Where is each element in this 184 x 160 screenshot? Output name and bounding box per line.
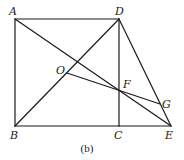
geometry-diagram: A D B C E O F G (b) bbox=[0, 0, 184, 160]
label-F: F bbox=[122, 78, 131, 91]
figure-caption: (b) bbox=[81, 142, 94, 155]
label-O: O bbox=[56, 64, 65, 77]
label-D: D bbox=[114, 5, 124, 18]
segment-OG bbox=[67, 73, 160, 104]
label-A: A bbox=[8, 5, 17, 18]
segment-AE bbox=[15, 19, 171, 126]
label-C: C bbox=[114, 129, 123, 142]
label-B: B bbox=[9, 129, 18, 142]
label-E: E bbox=[164, 129, 173, 142]
label-G: G bbox=[162, 98, 171, 111]
